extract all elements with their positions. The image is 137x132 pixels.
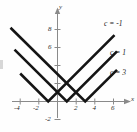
y-tick-label-8: 8 xyxy=(48,26,52,33)
x-tick-label-4: 4 xyxy=(93,105,97,112)
y-tick-label--2: -2 xyxy=(45,116,51,123)
x-axis-arrowhead xyxy=(124,99,131,104)
x-tick-label-6: 6 xyxy=(111,105,115,112)
absolute-value-family-plot: -4 -2 2 4 6 8 6 -2 y x c = -1 c = 1 c = … xyxy=(0,0,137,132)
x-tick-label--2: -2 xyxy=(33,105,39,112)
x-axis-label: x xyxy=(131,96,134,103)
curve-label-c-1: c = 1 xyxy=(110,49,126,57)
curve-c-1 xyxy=(15,50,118,102)
curve-label-c-3: c = 3 xyxy=(110,69,126,77)
y-axis-label: y xyxy=(59,4,62,11)
curve-label-c-neg1: c = -1 xyxy=(104,20,122,28)
x-tick-label-2: 2 xyxy=(74,105,78,112)
y-tick-label-6: 6 xyxy=(48,44,52,51)
curve-c-3 xyxy=(11,28,118,102)
x-tick-label--4: -4 xyxy=(14,105,20,112)
